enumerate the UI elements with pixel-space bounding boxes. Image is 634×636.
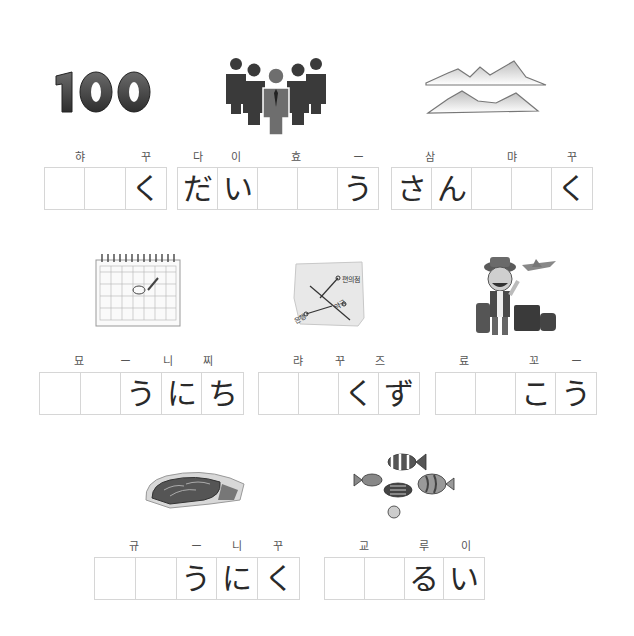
reading-label: 루 <box>419 537 429 553</box>
answer-box-hyaku: く <box>44 167 167 210</box>
answer-box-myounichi: う に ち <box>39 372 244 415</box>
reading-label: 니 <box>163 352 173 368</box>
answer-box-ryakuzu: く ず <box>258 372 420 415</box>
reading-label: 꾸 <box>273 537 283 553</box>
reading-label: 삼 <box>425 148 435 164</box>
answer-cell[interactable]: に <box>217 558 258 599</box>
answer-cell[interactable]: だ <box>178 168 218 209</box>
reading-label: 꾸 <box>567 148 577 164</box>
traveler-picture <box>470 253 560 338</box>
reading-label: 이 <box>231 148 241 164</box>
answer-cell[interactable] <box>365 558 405 599</box>
answer-cell[interactable] <box>40 373 81 414</box>
answer-cell[interactable] <box>45 168 85 209</box>
reading-label: 다 <box>193 148 203 164</box>
answer-cell[interactable] <box>512 168 552 209</box>
answer-cell[interactable] <box>85 168 125 209</box>
answer-cell[interactable]: く <box>126 168 166 209</box>
tropical-fish-picture <box>352 450 458 522</box>
reading-label: 규 <box>129 537 139 553</box>
answer-cell[interactable] <box>259 373 299 414</box>
reading-label: 효 <box>291 148 301 164</box>
answer-box-ryokou: こ う <box>435 372 597 415</box>
answer-box-gyorui: る い <box>324 557 485 600</box>
answer-cell[interactable] <box>95 558 136 599</box>
answer-cell[interactable]: に <box>162 373 203 414</box>
answer-cell[interactable]: い <box>218 168 258 209</box>
answer-cell[interactable]: さ <box>392 168 432 209</box>
answer-cell[interactable] <box>81 373 122 414</box>
mountains-picture <box>418 55 548 117</box>
answer-cell[interactable]: く <box>552 168 592 209</box>
answer-box-daihyou: だ い う <box>177 167 379 210</box>
svg-text:편의점: 편의점 <box>342 275 360 284</box>
answer-cell[interactable] <box>472 168 512 209</box>
answer-cell[interactable] <box>325 558 365 599</box>
answer-box-gyuuniku: う に く <box>94 557 300 600</box>
answer-box-sanmyaku: さ ん く <box>391 167 593 210</box>
reading-label: ー <box>353 148 364 164</box>
number-100-picture <box>52 68 156 116</box>
answer-cell[interactable] <box>258 168 298 209</box>
answer-cell[interactable]: う <box>338 168 378 209</box>
answer-cell[interactable] <box>476 373 516 414</box>
reading-label: 꾸 <box>335 352 345 368</box>
answer-cell[interactable]: い <box>444 558 484 599</box>
reading-label: ー <box>120 352 131 368</box>
reading-label: 먀 <box>507 148 517 164</box>
answer-cell[interactable]: ず <box>379 373 419 414</box>
street-map-picture: 편의점 약국 은행 <box>292 258 368 330</box>
answer-cell[interactable] <box>298 168 338 209</box>
reading-label: 찌 <box>203 352 213 368</box>
answer-cell[interactable]: う <box>121 373 162 414</box>
answer-cell[interactable]: ち <box>202 373 243 414</box>
reading-label: 햐 <box>75 148 85 164</box>
reading-label: 꼬 <box>529 352 539 368</box>
answer-cell[interactable] <box>299 373 339 414</box>
answer-cell[interactable]: く <box>339 373 379 414</box>
answer-cell[interactable]: ん <box>432 168 472 209</box>
answer-cell[interactable]: く <box>258 558 299 599</box>
answer-cell[interactable] <box>436 373 476 414</box>
reading-label: 이 <box>461 537 471 553</box>
answer-cell[interactable] <box>136 558 177 599</box>
answer-cell[interactable]: る <box>405 558 445 599</box>
reading-label: 묘 <box>74 352 84 368</box>
reading-label: 랴 <box>293 352 303 368</box>
reading-label: 니 <box>232 537 242 553</box>
reading-label: 교 <box>359 537 369 553</box>
group-of-people-picture <box>224 54 328 136</box>
calendar-picture <box>92 250 184 330</box>
reading-label: 즈 <box>375 352 385 368</box>
answer-cell[interactable]: う <box>177 558 218 599</box>
reading-label: ー <box>571 352 582 368</box>
reading-label: 꾸 <box>141 148 151 164</box>
reading-label: 료 <box>459 352 469 368</box>
beef-steak-picture <box>140 460 250 512</box>
answer-cell[interactable]: こ <box>516 373 556 414</box>
reading-label: ー <box>191 537 202 553</box>
answer-cell[interactable]: う <box>556 373 596 414</box>
